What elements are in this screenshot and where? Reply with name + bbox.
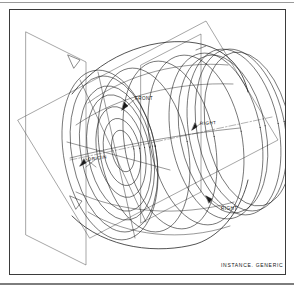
cad-drawing-page: FRONT RIGHT RIGHT ORIGIN INSTANCE. GENER… (0, 0, 294, 286)
drawing-frame-border: FRONT RIGHT RIGHT ORIGIN INSTANCE. GENER… (9, 9, 286, 275)
instance-caption: INSTANCE. GENERIC (221, 263, 283, 268)
body-cross-section-rings (48, 41, 285, 248)
cad-wireframe-canvas[interactable] (10, 10, 285, 274)
top-rule-divider (0, 2, 294, 3)
datum-label-front: FRONT (135, 97, 153, 102)
datum-plane-front (26, 32, 86, 265)
datum-label-right-middle: RIGHT (200, 121, 217, 126)
bottom-rule-divider (0, 283, 294, 285)
datum-label-right-lower: RIGHT (221, 207, 238, 212)
